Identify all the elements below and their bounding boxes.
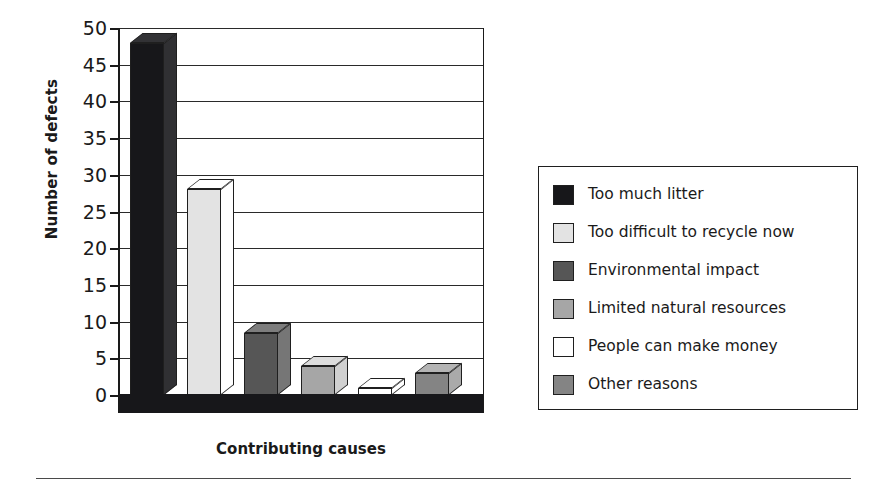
legend-swatch xyxy=(553,299,574,319)
bar xyxy=(244,333,278,395)
legend-item: Too much litter xyxy=(539,176,857,214)
y-axis-tick xyxy=(110,358,120,360)
y-axis-tick-label: 35 xyxy=(83,129,107,148)
legend-label: Too difficult to recycle now xyxy=(588,225,795,241)
y-axis-title: Number of defects xyxy=(43,59,61,259)
legend-swatch xyxy=(553,185,574,205)
legend-label: Limited natural resources xyxy=(588,301,786,317)
y-axis-tick xyxy=(110,212,120,214)
y-axis-tick xyxy=(110,138,120,140)
x-axis-title: Contributing causes xyxy=(118,440,484,458)
y-axis-tick-label: 25 xyxy=(83,202,107,221)
chart-figure: Number of defects 50454035302520151050 C… xyxy=(0,0,887,497)
y-axis-tick-label: 5 xyxy=(95,349,107,368)
page-divider-rule xyxy=(36,478,851,479)
legend-label: People can make money xyxy=(588,339,778,355)
y-axis-tick xyxy=(110,101,120,103)
legend-item: Limited natural resources xyxy=(539,290,857,328)
chart-legend: Too much litterToo difficult to recycle … xyxy=(538,166,858,410)
bar-front-face xyxy=(130,43,164,395)
bar-side-face xyxy=(164,33,177,395)
bar-side-face xyxy=(278,322,291,395)
legend-item: Environmental impact xyxy=(539,252,857,290)
legend-swatch xyxy=(553,375,574,395)
y-axis-tick-label: 20 xyxy=(83,239,107,258)
bar-front-face xyxy=(187,189,221,395)
y-axis-tick xyxy=(110,65,120,67)
legend-swatch xyxy=(553,223,574,243)
y-axis-tick xyxy=(110,322,120,324)
bar xyxy=(187,189,221,395)
y-axis-tick-label: 10 xyxy=(83,312,107,331)
legend-item: Too difficult to recycle now xyxy=(539,214,857,252)
legend-label: Environmental impact xyxy=(588,263,759,279)
bar xyxy=(130,43,164,395)
bar xyxy=(415,373,449,395)
legend-label: Other reasons xyxy=(588,377,697,393)
y-axis-tick-label: 40 xyxy=(83,92,107,111)
bar-front-face xyxy=(244,333,278,395)
y-axis-tick-label: 0 xyxy=(95,386,107,405)
legend-items: Too much litterToo difficult to recycle … xyxy=(539,176,857,404)
y-axis-tick xyxy=(110,248,120,250)
legend-label: Too much litter xyxy=(588,187,704,203)
y-axis-tick-label: 45 xyxy=(83,55,107,74)
plot-area: 50454035302520151050 xyxy=(118,28,484,413)
bar-series xyxy=(120,28,483,413)
y-axis-tick xyxy=(110,28,120,30)
chart-floor xyxy=(120,395,483,413)
y-axis-tick-label: 50 xyxy=(83,19,107,38)
legend-swatch xyxy=(553,261,574,281)
bar-side-face xyxy=(221,179,234,395)
legend-item: Other reasons xyxy=(539,366,857,404)
legend-swatch xyxy=(553,337,574,357)
legend-item: People can make money xyxy=(539,328,857,366)
y-axis-tick-label: 30 xyxy=(83,165,107,184)
y-axis-tick xyxy=(110,285,120,287)
bar-front-face xyxy=(415,373,449,395)
bar xyxy=(301,366,335,395)
y-axis-tick-label: 15 xyxy=(83,275,107,294)
y-axis-tick xyxy=(110,395,120,397)
bar-front-face xyxy=(301,366,335,395)
y-axis-tick xyxy=(110,175,120,177)
